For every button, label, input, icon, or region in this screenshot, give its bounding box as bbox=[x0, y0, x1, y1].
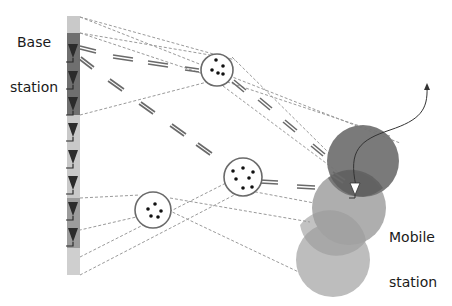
diagram-canvas bbox=[0, 0, 452, 306]
scatterer-top bbox=[201, 54, 233, 86]
base-station-label: Base station bbox=[4, 5, 64, 110]
scatterer-middle bbox=[224, 158, 262, 196]
scatterer-bottom bbox=[135, 192, 171, 228]
mobile-coverage-circles bbox=[296, 125, 399, 297]
mobile-station-label: Mobile station bbox=[389, 200, 437, 305]
